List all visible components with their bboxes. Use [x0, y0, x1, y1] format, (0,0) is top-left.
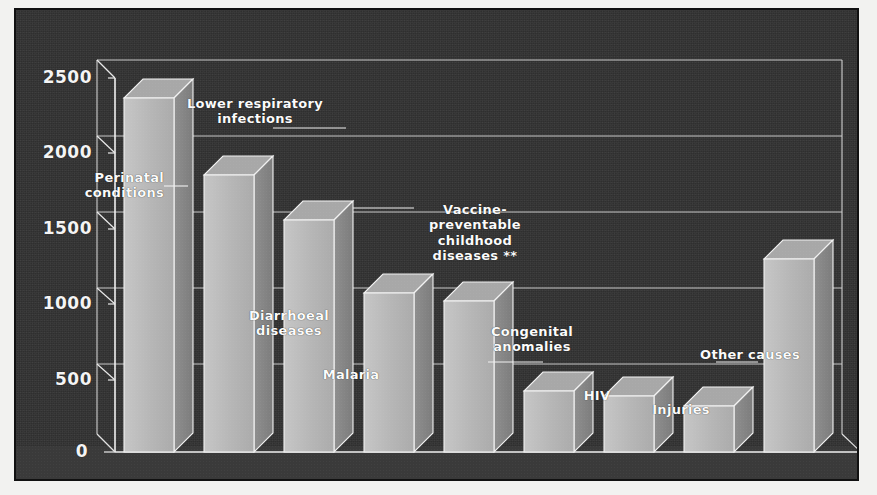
bar-label-congenital-anomalies: Congenital anomalies [466, 324, 598, 355]
ytick-2500: 2500 [16, 67, 92, 87]
bar-lower-respiratory-infections [204, 156, 273, 452]
bar-injuries [684, 387, 753, 452]
bar-malaria [364, 274, 433, 452]
bar-label-diarrhoeal-diseases: Diarrhoeal diseases [225, 308, 353, 339]
floor-left-depth-edge [97, 434, 115, 452]
bar-label-lower-respiratory-infections: Lower respiratory infections [164, 96, 346, 127]
bar-label-vaccine-preventable-childhood-diseases: Vaccine- preventable childhood diseases … [401, 202, 549, 263]
bar-vaccine-preventable-childhood-diseases [444, 282, 513, 452]
bar-label-hiv: HIV [571, 388, 623, 403]
bar-label-malaria: Malaria [311, 367, 391, 382]
ytick-2000: 2000 [16, 142, 92, 162]
axis-tick-connectors [97, 60, 115, 452]
ytick-1500: 1500 [16, 218, 92, 238]
bar-congenital-anomalies [524, 372, 593, 452]
bar-label-other-causes: Other causes [688, 347, 812, 362]
bar-label-injuries: Injuries [640, 402, 722, 417]
chart-figure: 2500 2000 1500 1000 500 0 Perinatal cond… [14, 8, 859, 481]
bar-perinatal-conditions [124, 79, 193, 452]
ytick-0: 0 [16, 441, 88, 461]
ytick-500: 500 [16, 369, 92, 389]
bar-label-perinatal-conditions: Perinatal conditions [52, 170, 164, 201]
bar-other-causes [764, 240, 833, 452]
ytick-1000: 1000 [16, 293, 92, 313]
scanned-page: 2500 2000 1500 1000 500 0 Perinatal cond… [0, 0, 877, 495]
floor-right-depth-edge [842, 434, 859, 452]
